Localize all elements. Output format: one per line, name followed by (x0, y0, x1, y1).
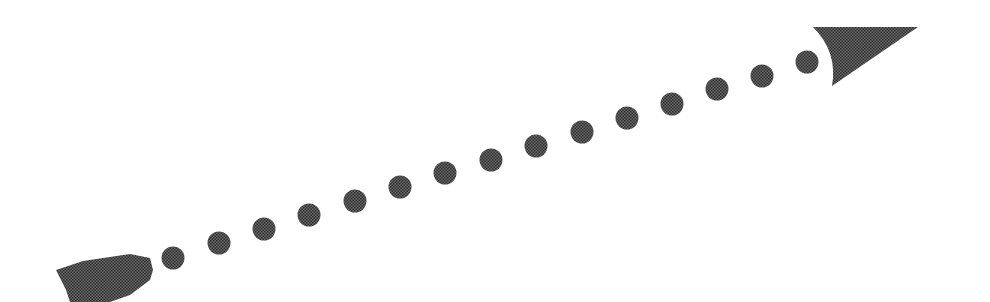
arrow-dot (706, 78, 729, 101)
arrow-dot (253, 218, 276, 241)
dotted-arrow-diagram (0, 0, 990, 302)
arrow-tail (56, 254, 153, 302)
arrow-dot (208, 232, 231, 255)
tail-shape (56, 254, 153, 302)
arrow-dot (796, 51, 819, 74)
arrow-dot (751, 65, 774, 88)
arrow-dot (525, 135, 548, 158)
arrow-dot (571, 121, 594, 144)
arrow-head (813, 27, 918, 86)
arrow-dot (298, 204, 321, 227)
arrowhead-shape (813, 27, 918, 86)
arrow-dot (480, 149, 503, 172)
arrow-dot (162, 247, 185, 270)
arrow-dot (344, 190, 367, 213)
arrow-dot (616, 107, 639, 130)
arrow-dot (661, 93, 684, 116)
arrow-dot (434, 162, 457, 185)
arrow-dot (389, 176, 412, 199)
arrow-dots (162, 51, 819, 270)
